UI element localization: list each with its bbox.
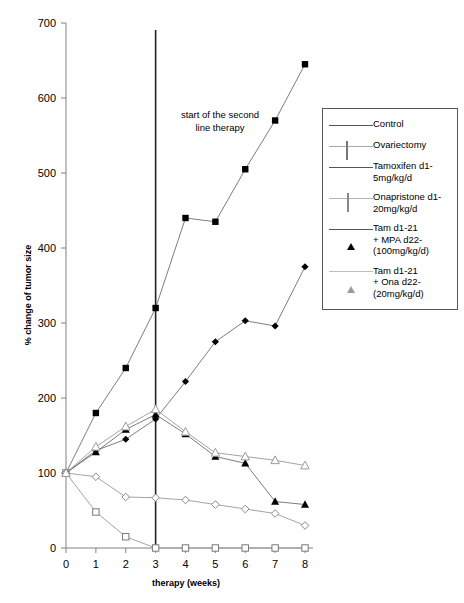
data-point-marker	[302, 61, 308, 67]
open-diamond-key	[329, 192, 373, 204]
axis-text-group: 0100200300400500600700012345678	[38, 17, 308, 570]
legend-label-onapristone: Onapristone d1- 20mg/kg/d	[373, 191, 441, 214]
open-square-icon	[346, 141, 348, 160]
x-tick-label: 1	[93, 558, 99, 570]
series-line	[66, 473, 305, 548]
data-point-marker	[301, 522, 309, 530]
x-tick-label: 3	[153, 558, 159, 570]
legend-item-tamoxifen[interactable]: Tamoxifen d1- 5mg/kg/d	[329, 160, 451, 183]
filled-square-key	[329, 119, 373, 131]
legend-label-tam-ona: Tam d1-21 + Ona d22- (20mg/kg/d)	[373, 265, 424, 300]
data-point-marker	[151, 405, 159, 413]
legend-label-ovariectomy: Ovariectomy	[373, 139, 426, 151]
y-tick-label: 200	[38, 392, 56, 404]
y-axis-title: % change of tumor size	[23, 225, 33, 365]
data-point-marker	[211, 448, 219, 456]
series-group	[62, 61, 309, 551]
open-diamond-icon	[347, 193, 349, 212]
legend-item-tam-mpa[interactable]: Tam d1-21 + MPA d22- (100mg/kg/d)	[329, 222, 451, 257]
data-point-marker	[242, 166, 248, 172]
data-point-marker	[271, 510, 279, 518]
open-triangle-key	[329, 266, 373, 278]
y-tick-label: 600	[38, 92, 56, 104]
data-point-marker	[272, 322, 279, 329]
data-point-marker	[272, 545, 278, 551]
second-line-therapy-annotation: start of the second line therapy	[140, 108, 300, 134]
series-line	[66, 409, 305, 473]
data-point-marker	[212, 338, 219, 345]
series-1	[63, 470, 308, 551]
data-point-marker	[152, 305, 158, 311]
x-tick-label: 4	[182, 558, 188, 570]
data-point-marker	[301, 263, 308, 270]
series-line	[66, 267, 305, 473]
legend-label-tam-mpa: Tam d1-21 + MPA d22- (100mg/kg/d)	[373, 222, 429, 257]
data-point-marker	[182, 215, 188, 221]
chart-legend: Control Ovariectomy Tamoxifen d1- 5mg/kg…	[322, 108, 458, 310]
x-tick-label: 2	[123, 558, 129, 570]
data-point-marker	[122, 436, 129, 443]
y-tick-label: 100	[38, 467, 56, 479]
open-triangle-icon	[347, 269, 355, 293]
data-point-marker	[152, 545, 158, 551]
x-tick-label: 0	[63, 558, 69, 570]
data-point-marker	[302, 545, 308, 551]
data-point-marker	[122, 422, 130, 430]
chart-figure: 0100200300400500600700012345678 % change…	[0, 0, 464, 603]
x-tick-label: 5	[212, 558, 218, 570]
data-point-marker	[182, 496, 190, 504]
data-point-marker	[122, 493, 130, 501]
y-tick-label: 0	[50, 542, 56, 554]
legend-label-tamoxifen: Tamoxifen d1- 5mg/kg/d	[373, 160, 433, 183]
legend-label-control: Control	[373, 118, 404, 130]
filled-triangle-icon	[347, 226, 355, 250]
x-axis-title: therapy (weeks)	[66, 578, 306, 588]
data-point-marker	[93, 410, 99, 416]
axes-group	[61, 23, 313, 553]
data-point-marker	[212, 501, 220, 509]
filled-diamond-key	[329, 161, 373, 173]
y-tick-label: 700	[38, 17, 56, 29]
legend-item-onapristone[interactable]: Onapristone d1- 20mg/kg/d	[329, 191, 451, 214]
annotation-line-2: line therapy	[140, 121, 300, 134]
data-point-marker	[212, 219, 218, 225]
x-tick-label: 6	[242, 558, 248, 570]
data-point-marker	[242, 545, 248, 551]
y-tick-label: 300	[38, 317, 56, 329]
data-point-marker	[212, 545, 218, 551]
data-point-marker	[242, 317, 249, 324]
annotation-line-1: start of the second	[140, 108, 300, 121]
legend-item-ovariectomy[interactable]: Ovariectomy	[329, 139, 451, 152]
series-3	[62, 469, 309, 529]
legend-item-tam-ona[interactable]: Tam d1-21 + Ona d22- (20mg/kg/d)	[329, 265, 451, 300]
data-point-marker	[92, 473, 100, 481]
data-point-marker	[152, 494, 160, 502]
data-point-marker	[182, 545, 188, 551]
data-point-marker	[92, 442, 100, 450]
data-point-marker	[181, 427, 189, 435]
legend-item-control[interactable]: Control	[329, 118, 451, 131]
x-tick-label: 8	[302, 558, 308, 570]
data-point-marker	[241, 505, 249, 513]
open-square-key	[329, 140, 373, 152]
data-point-marker	[123, 365, 129, 371]
x-tick-label: 7	[272, 558, 278, 570]
y-tick-label: 500	[38, 167, 56, 179]
series-4	[62, 410, 309, 507]
data-point-marker	[93, 509, 99, 515]
data-point-marker	[123, 534, 129, 540]
filled-triangle-key	[329, 223, 373, 235]
y-tick-label: 400	[38, 242, 56, 254]
